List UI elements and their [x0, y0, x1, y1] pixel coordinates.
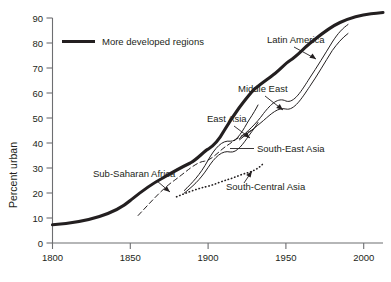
chart-figure: 0 10 20 30 40 50 60 70 80 90 1800 1850 1… [0, 0, 391, 282]
y-tick-label-90: 90 [32, 13, 43, 24]
y-tick-label-10: 10 [32, 213, 43, 224]
y-tick-label-40: 40 [32, 138, 43, 149]
y-axis-title: Percent urban [7, 142, 19, 208]
annotation-label-middle-east: Middle East [238, 83, 288, 94]
annotation-label-south-east-asia: South-East Asia [257, 143, 325, 154]
x-tick-label-1950: 1950 [275, 252, 296, 263]
y-tick-label-50: 50 [32, 113, 43, 124]
y-tick-label-30: 30 [32, 163, 43, 174]
annotation-label-sub-saharan-africa: Sub-Saharan Africa [93, 168, 176, 179]
y-tick-label-60: 60 [32, 88, 43, 99]
annotation-label-east-asia: East Asia [207, 113, 247, 124]
x-tick-label-1900: 1900 [198, 252, 219, 263]
legend-label-more-developed-regions: More developed regions [102, 36, 204, 47]
x-tick-label-1800: 1800 [42, 252, 63, 263]
annotation-label-latin-america: Latin America [267, 34, 325, 45]
x-tick-label-2000: 2000 [353, 252, 374, 263]
x-tick-label-1850: 1850 [120, 252, 141, 263]
annotation-label-south-central-asia: South-Central Asia [226, 181, 306, 192]
y-tick-label-80: 80 [32, 38, 43, 49]
urbanization-line-chart: 0 10 20 30 40 50 60 70 80 90 1800 1850 1… [0, 0, 391, 282]
y-tick-label-20: 20 [32, 188, 43, 199]
y-tick-label-0: 0 [38, 238, 43, 249]
y-tick-label-70: 70 [32, 63, 43, 74]
